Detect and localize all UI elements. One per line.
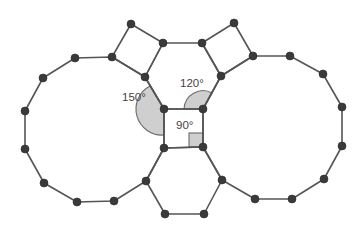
angle-label-90: 90° [176, 119, 193, 131]
vertex [40, 179, 48, 187]
vertex [286, 52, 294, 60]
vertex [338, 142, 346, 150]
vertex [251, 195, 259, 203]
vertex [39, 74, 47, 82]
polygon-tiling-diagram: 150° 120° 90° [0, 0, 364, 231]
vertex [21, 145, 29, 153]
vertex [200, 210, 208, 218]
top-right-square [202, 23, 253, 76]
angle-label-150: 150° [122, 91, 146, 103]
vertex [230, 19, 238, 27]
vertex [21, 107, 29, 115]
vertex [199, 105, 207, 113]
vertex [160, 144, 168, 152]
vertex [159, 39, 167, 47]
top-left-square [112, 24, 163, 77]
vertex [161, 210, 169, 218]
vertex [218, 176, 226, 184]
vertex [108, 53, 116, 61]
vertex [319, 70, 327, 78]
vertex [141, 73, 149, 81]
vertex [217, 72, 225, 80]
angle-label-120: 120° [180, 77, 204, 89]
vertex [127, 20, 135, 28]
bottom-hexagon [146, 147, 222, 214]
vertex [110, 197, 118, 205]
vertex [142, 177, 150, 185]
vertex [288, 195, 296, 203]
vertex [320, 175, 328, 183]
vertex [249, 52, 257, 60]
vertex [71, 54, 79, 62]
vertex [338, 103, 346, 111]
vertex [199, 143, 207, 151]
vertex [73, 198, 81, 206]
vertex [198, 39, 206, 47]
vertex [160, 105, 168, 113]
